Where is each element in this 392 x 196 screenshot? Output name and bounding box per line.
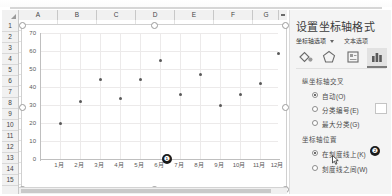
- pane-divider: [296, 68, 386, 69]
- chart-gridline: [200, 33, 201, 159]
- ribbon-divider: [10, 7, 382, 9]
- pane-tab-strip: 坐标轴选项 文本选项: [296, 36, 388, 46]
- tab-axis-options[interactable]: 坐标轴选项: [296, 36, 326, 46]
- column-header-b[interactable]: B: [58, 10, 97, 20]
- pane-icon-toolbar: [295, 48, 389, 66]
- ribbon-bottom-edge: [0, 0, 392, 7]
- x-tick-label: 1月: [49, 162, 69, 169]
- mouse-cursor-icon: [332, 155, 339, 165]
- effects-pentagon-icon[interactable]: [319, 48, 339, 66]
- x-tick-label: 5月: [129, 162, 149, 169]
- tab-text-options[interactable]: 文本选项: [344, 36, 368, 46]
- row-header[interactable]: 15: [2, 174, 18, 186]
- excel-format-axis-screen: A B C D E F G 1 2 3 4 5 6 7 8 9 10 11 12…: [0, 0, 392, 196]
- x-tick-label: 3月: [89, 162, 109, 169]
- y-tick-label: 60: [22, 48, 36, 54]
- chart-resize-handle[interactable]: [282, 104, 289, 111]
- radio-label-auto[interactable]: 自动(O): [322, 91, 345, 101]
- chevron-down-icon[interactable]: [330, 40, 334, 43]
- chart-gridline: [140, 33, 141, 159]
- category-number-input[interactable]: [375, 103, 387, 114]
- data-point[interactable]: [179, 93, 182, 96]
- data-point[interactable]: [277, 52, 280, 55]
- chart-gridline: [40, 105, 278, 106]
- column-header-e[interactable]: E: [175, 10, 214, 20]
- x-axis-line[interactable]: [40, 159, 280, 160]
- column-header-g[interactable]: G: [253, 10, 280, 20]
- radio-label-on-tick-marks[interactable]: 在刻度线上(K): [322, 149, 366, 159]
- callout-badge-1: ❶: [162, 154, 172, 164]
- data-point[interactable]: [239, 93, 242, 96]
- callout-badge-2: ❷: [370, 146, 380, 156]
- chart-resize-handle[interactable]: [19, 104, 26, 111]
- section-label-vertical-axis-crosses: 纵坐标轴交叉: [302, 76, 344, 86]
- column-header-f[interactable]: F: [214, 10, 253, 20]
- chart-resize-handle[interactable]: [19, 22, 26, 29]
- select-all-triangle-icon[interactable]: [2, 10, 19, 20]
- section-label-axis-position: 坐标轴位置: [302, 134, 337, 144]
- horizontal-scrollbar[interactable]: [19, 187, 287, 194]
- chart-gridline: [40, 141, 278, 142]
- bar-chart-glyph: [367, 48, 387, 66]
- column-options-icon[interactable]: [278, 10, 287, 20]
- chart-gridline: [40, 87, 278, 88]
- radio-category-number[interactable]: [312, 106, 318, 112]
- radio-max-category[interactable]: [312, 120, 318, 126]
- chart-gridline: [40, 123, 278, 124]
- chart-gridline: [40, 69, 278, 70]
- y-tick-label: 50: [22, 66, 36, 72]
- radio-label-between-tick-marks[interactable]: 刻度线之间(W): [322, 164, 367, 174]
- fill-and-line-icon[interactable]: [295, 48, 315, 66]
- y-axis-line[interactable]: [40, 33, 41, 161]
- column-header-c[interactable]: C: [97, 10, 136, 20]
- radio-label-category-number[interactable]: 分类编号(E): [322, 105, 359, 115]
- horizontal-scrollbar-thumb[interactable]: [21, 189, 271, 193]
- data-point[interactable]: [259, 82, 262, 85]
- radio-label-max-category[interactable]: 最大分类(G): [322, 119, 359, 129]
- radio-auto[interactable]: [312, 92, 318, 98]
- x-tick-label: 2月: [69, 162, 89, 169]
- worksheet-area: A B C D E F G 1 2 3 4 5 6 7 8 9 10 11 12…: [2, 10, 287, 194]
- y-tick-label: 0: [22, 156, 36, 162]
- cursor-arrow-glyph: [332, 155, 339, 165]
- scatter-chart-object[interactable]: 70 60 50 40 30 20 10 0 1月: [21, 24, 287, 190]
- radio-on-tick-marks[interactable]: [312, 150, 318, 156]
- y-tick-label: 70: [22, 30, 36, 36]
- chart-gridline: [80, 33, 81, 159]
- chart-gridline: [180, 33, 181, 159]
- axis-options-chart-icon[interactable]: [367, 48, 387, 68]
- x-tick-label: 12月: [266, 162, 288, 169]
- format-axis-pane: 设置坐标轴格式 坐标轴选项 文本选项: [289, 10, 391, 194]
- pane-title: 设置坐标轴格式: [296, 18, 375, 34]
- y-tick-label: 20: [22, 120, 36, 126]
- chart-gridline: [40, 33, 278, 34]
- chart-gridline: [60, 33, 61, 159]
- data-point[interactable]: [199, 73, 202, 76]
- data-point[interactable]: [119, 97, 122, 100]
- chart-gridline: [260, 33, 261, 159]
- chart-gridline: [100, 33, 101, 159]
- size-properties-glyph: [343, 48, 363, 66]
- chart-gridline: [240, 33, 241, 159]
- data-point[interactable]: [99, 78, 102, 81]
- x-tick-label: 8月: [189, 162, 209, 169]
- column-header-a[interactable]: A: [19, 10, 58, 20]
- data-point[interactable]: [159, 59, 162, 62]
- row-header-band: 1 2 3 4 5 6 7 8 9 10 11 12 13 14 15: [2, 20, 19, 194]
- chart-resize-handle[interactable]: [282, 22, 289, 29]
- column-header-d[interactable]: D: [136, 10, 175, 20]
- data-point[interactable]: [139, 78, 142, 81]
- x-tick-label: 9月: [209, 162, 229, 169]
- data-point[interactable]: [219, 104, 222, 107]
- data-point[interactable]: [79, 100, 82, 103]
- chart-gridline: [120, 33, 121, 159]
- chart-resize-handle[interactable]: [151, 22, 158, 29]
- radio-between-tick-marks[interactable]: [312, 165, 318, 171]
- y-tick-label: 40: [22, 84, 36, 90]
- data-point[interactable]: [59, 122, 62, 125]
- size-and-properties-icon[interactable]: [343, 48, 363, 66]
- x-tick-label: 4月: [109, 162, 129, 169]
- x-tick-label: 10月: [228, 162, 250, 169]
- chart-gridline: [220, 33, 221, 159]
- pentagon-glyph: [319, 48, 339, 66]
